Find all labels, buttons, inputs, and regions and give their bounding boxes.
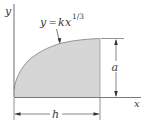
- dim-h-arrow-right-icon: [94, 112, 100, 116]
- area-diagram: y x a h y = k x 1/3: [0, 0, 149, 131]
- eq-equals: =: [49, 17, 57, 28]
- dim-h-label: h: [52, 108, 59, 121]
- eq-exponent: 1/3: [72, 12, 84, 21]
- eq-var: x: [65, 16, 72, 29]
- dim-a-label: a: [112, 61, 119, 74]
- eq-coef: k: [58, 16, 65, 29]
- shaded-region: [14, 39, 100, 98]
- eq-lhs: y: [39, 16, 47, 29]
- dim-h-arrow-left-icon: [15, 112, 21, 116]
- dim-a-arrow-bottom-icon: [114, 91, 118, 97]
- y-axis-label: y: [4, 5, 12, 18]
- dim-a-arrow-top-icon: [114, 39, 118, 45]
- curve-equation: y = k x 1/3: [39, 12, 84, 29]
- x-axis-label: x: [134, 98, 140, 109]
